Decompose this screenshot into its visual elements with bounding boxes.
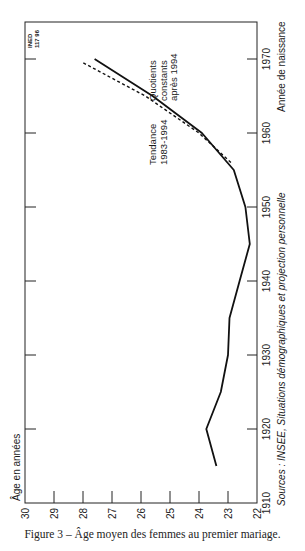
age-tick-label: 23 <box>223 507 234 519</box>
year-tick-label: 1940 <box>261 269 272 292</box>
annotation-quotients-line3: après 1994 <box>169 53 180 101</box>
axis-ticks <box>25 59 257 503</box>
annotation-tendance: Tendance 1983-1994 <box>148 120 169 165</box>
year-tick-label: 1960 <box>261 121 272 144</box>
annotation-tendance-line2: 1983-1994 <box>159 120 170 165</box>
year-tick-label: 1910 <box>261 491 272 514</box>
series-tendance <box>95 59 250 466</box>
plot-frame <box>25 22 257 503</box>
year-tick-label: 1930 <box>261 343 272 366</box>
age-tick-label: 30 <box>20 507 31 519</box>
annotation-quotients: Quotients constants après 1994 <box>148 53 180 101</box>
age-tick-label: 24 <box>194 507 205 519</box>
annotation-quotients-line1: Quotients <box>148 53 159 101</box>
ined-credit: INED 117 96 <box>27 30 41 48</box>
year-tick-label: 1950 <box>261 195 272 218</box>
age-tick-label: 25 <box>165 507 176 519</box>
year-axis-title: Année de naissance <box>276 21 287 112</box>
age-tick-label: 27 <box>107 507 118 519</box>
source-note: Sources : INSEE, Situations démographiqu… <box>276 192 287 506</box>
age-tick-label: 29 <box>49 507 60 519</box>
annotation-tendance-line1: Tendance <box>148 120 159 165</box>
figure-caption: Figure 3 – Âge moyen des femmes au premi… <box>0 528 305 540</box>
age-tick-label: 26 <box>136 507 147 519</box>
age-tick-label: 28 <box>78 507 89 519</box>
ined-line2: 117 96 <box>34 30 41 48</box>
age-axis-title: Âge en années <box>11 434 22 501</box>
year-tick-label: 1970 <box>261 47 272 70</box>
axis-tick-labels: 2223242526272829301910192019301940195019… <box>20 47 273 519</box>
ined-line1: INED <box>27 30 34 48</box>
year-tick-label: 1920 <box>261 417 272 440</box>
